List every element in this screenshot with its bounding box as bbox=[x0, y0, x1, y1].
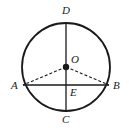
point-label-b: B bbox=[113, 80, 120, 91]
point-label-c: C bbox=[62, 114, 69, 125]
radius-oa-dashed-line bbox=[23, 67, 66, 85]
point-label-a: A bbox=[11, 80, 18, 91]
radius-ob-dashed-line bbox=[66, 67, 109, 85]
point-label-d: D bbox=[62, 5, 70, 16]
point-label-o: O bbox=[71, 54, 79, 65]
center-point-o-dot bbox=[63, 64, 69, 70]
geometry-figure: D O A B E C bbox=[0, 0, 132, 132]
point-label-e: E bbox=[70, 87, 77, 98]
